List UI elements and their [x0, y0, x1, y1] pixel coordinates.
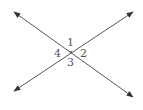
angle-label-1: 1 — [67, 36, 74, 49]
angle-label-2: 2 — [80, 47, 87, 60]
angle-label-3: 3 — [67, 56, 74, 69]
angle-label-4: 4 — [54, 47, 61, 60]
line-ascending — [14, 12, 133, 91]
intersection-point — [70, 51, 72, 53]
line-descending — [14, 12, 133, 97]
intersecting-lines-diagram: 1 2 3 4 — [0, 0, 143, 110]
